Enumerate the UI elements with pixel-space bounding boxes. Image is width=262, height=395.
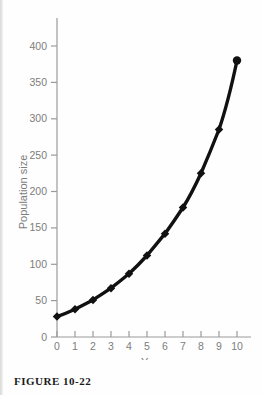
- x-tick-label: 1: [72, 340, 78, 352]
- x-axis-ticks: 0 1 2 3 4 5 6 7 8 9: [54, 331, 243, 352]
- x-axis-title: Year: [141, 356, 164, 360]
- population-curve: [57, 61, 237, 317]
- y-tick-label: 400: [29, 40, 47, 52]
- data-point: [53, 312, 61, 320]
- figure-caption: FIGURE 10-22: [14, 375, 91, 387]
- x-tick-label: 8: [198, 340, 204, 352]
- x-tick-label: 4: [126, 340, 132, 352]
- x-tick-label: 9: [216, 340, 222, 352]
- y-tick-label: 50: [35, 294, 47, 306]
- y-tick-label: 0: [41, 331, 47, 343]
- x-tick-label: 0: [54, 340, 60, 352]
- y-tick-label: 200: [29, 185, 47, 197]
- x-tick-label: 6: [162, 340, 168, 352]
- figure-container: 0 50 100 150 200 250 300 350 400: [0, 0, 262, 395]
- x-tick-label: 3: [108, 340, 114, 352]
- x-tick-label: 10: [231, 340, 243, 352]
- y-tick-label: 150: [29, 221, 47, 233]
- data-point-markers: [53, 56, 241, 321]
- x-tick-label: 5: [144, 340, 150, 352]
- y-tick-label: 100: [29, 258, 47, 270]
- y-tick-label: 300: [29, 112, 47, 124]
- data-point-endpoint: [233, 56, 241, 64]
- population-growth-chart: 0 50 100 150 200 250 300 350 400: [0, 0, 262, 360]
- y-tick-label: 350: [29, 76, 47, 88]
- y-tick-label: 250: [29, 149, 47, 161]
- chart-plot-area: 0 50 100 150 200 250 300 350 400: [0, 0, 262, 360]
- x-tick-label: 7: [180, 340, 186, 352]
- x-tick-label: 2: [90, 340, 96, 352]
- y-axis-ticks: 0 50 100 150 200 250 300 350 400: [29, 40, 57, 343]
- y-axis-title: Population size: [17, 155, 29, 230]
